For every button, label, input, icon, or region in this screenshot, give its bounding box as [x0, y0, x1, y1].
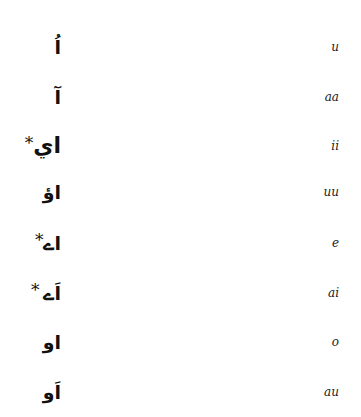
transliteration: u — [331, 27, 339, 67]
transliteration: e — [332, 223, 339, 263]
vowel-row-aa: آ aa — [0, 77, 361, 117]
vowel-row-u: اُ u — [0, 27, 361, 67]
transliteration: ii — [331, 126, 339, 166]
transliteration: o — [332, 322, 339, 362]
vowel-row-ai: اَے* ai — [0, 273, 361, 313]
transliteration: aa — [325, 77, 339, 117]
urdu-vowel: اَے* — [31, 273, 61, 313]
vowel-row-e: اے* e — [0, 223, 361, 263]
urdu-vowel: اے* — [35, 223, 61, 263]
urdu-vowel: اُ — [54, 27, 61, 67]
urdu-vowel: اي* — [25, 126, 61, 166]
transliteration: ai — [328, 273, 339, 313]
urdu-vowel: اَو — [43, 372, 61, 412]
urdu-vowel: اؤ — [43, 172, 61, 212]
transliteration: uu — [324, 172, 339, 212]
asterisk-marker: * — [31, 270, 40, 310]
vowel-row-ii: اي* ii — [0, 126, 361, 166]
transliteration: au — [324, 372, 339, 412]
urdu-vowel: آ — [54, 77, 61, 117]
asterisk-marker: * — [25, 123, 34, 163]
vowel-row-uu: اؤ uu — [0, 172, 361, 212]
vowel-row-au: اَو au — [0, 372, 361, 412]
urdu-vowel: او — [43, 322, 61, 362]
vowel-row-o: او o — [0, 322, 361, 362]
